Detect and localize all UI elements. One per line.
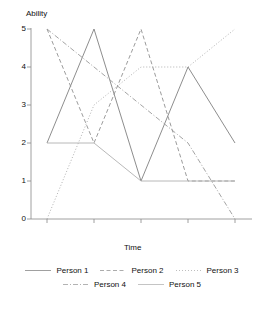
plot-area: [0, 0, 264, 250]
data-series-layer: [47, 29, 235, 219]
chart-legend: Person 1 Person 2 Person 3 Person 4: [0, 266, 264, 294]
legend-item-person-3[interactable]: Person 3: [176, 266, 239, 275]
series-line-person-4: [47, 29, 235, 219]
legend-item-person-2[interactable]: Person 2: [100, 266, 163, 275]
legend-row-1: Person 1 Person 2 Person 3: [0, 266, 264, 275]
series-line-person-5: [47, 143, 235, 181]
x-axis-ticks: [47, 219, 235, 223]
legend-line-icon-person-5: [138, 284, 164, 285]
legend-line-icon-person-3: [176, 270, 202, 271]
legend-label-person-5: Person 5: [169, 280, 201, 289]
legend-label-person-1: Person 1: [56, 266, 88, 275]
line-chart: Ability 5 4 3 2 1 0 Time: [0, 0, 264, 316]
y-axis-ticks: [27, 29, 31, 219]
x-axis-title: Time: [124, 243, 141, 252]
legend-label-person-4: Person 4: [94, 280, 126, 289]
legend-item-person-4[interactable]: Person 4: [63, 280, 126, 289]
legend-line-icon-person-1: [25, 270, 51, 271]
series-line-person-3: [47, 29, 235, 219]
legend-line-icon-person-4: [63, 284, 89, 285]
legend-row-2: Person 4 Person 5: [0, 280, 264, 289]
legend-item-person-5[interactable]: Person 5: [138, 280, 201, 289]
legend-line-icon-person-2: [100, 270, 126, 271]
legend-item-person-1[interactable]: Person 1: [25, 266, 88, 275]
axis-lines: [31, 28, 252, 219]
legend-label-person-2: Person 2: [131, 266, 163, 275]
legend-label-person-3: Person 3: [207, 266, 239, 275]
